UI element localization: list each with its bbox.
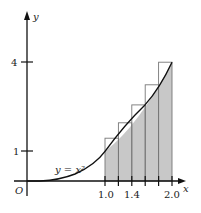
- x-tick-label-1.4: 1.4: [124, 189, 140, 200]
- y-tick-label-4: 4: [11, 57, 17, 68]
- curve-label: y = x²: [54, 164, 85, 175]
- y-tick-label-1: 1: [13, 146, 19, 157]
- y-axis-label: y: [32, 11, 39, 22]
- x-tick-label-2.0: 2.0: [164, 189, 180, 200]
- parabola-area-diagram: y 4 1 O y = x² 1.0 1.4 2.0 x: [0, 0, 201, 213]
- x-axis-label: x: [183, 183, 189, 194]
- origin-label: O: [15, 185, 23, 196]
- y-axis-arrow-icon: [24, 11, 30, 20]
- x-tick-label-1.0: 1.0: [98, 189, 114, 200]
